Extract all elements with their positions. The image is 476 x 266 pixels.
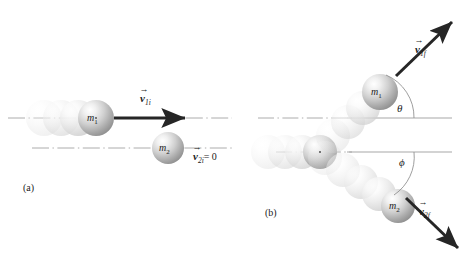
vector-label-v1f: v1f [415, 43, 426, 58]
figure-canvas [0, 0, 476, 266]
ball-m2-collision-center-dot [319, 151, 321, 153]
mass-label-m2-b: m2 [389, 200, 400, 214]
angle-label-phi: ϕ [399, 156, 405, 168]
vector-label-v2f: v2f [419, 205, 430, 220]
panel-tag-a: (a) [23, 182, 34, 193]
angle-label-theta: θ [397, 102, 402, 114]
physics-figure-2d-collision: m1 m2 v1i v2i= 0 (a) m1 m2 v1f v2f θ ϕ (… [0, 0, 476, 266]
vector-label-v2i: v2i= 0 [193, 150, 217, 165]
vector-label-v1i: v1i [140, 92, 151, 107]
mass-label-m2-a: m2 [159, 142, 170, 156]
vector-v2f [406, 198, 458, 248]
mass-label-m1-b: m1 [371, 86, 382, 100]
panel-tag-b: (b) [265, 207, 277, 218]
mass-label-m1-a: m1 [87, 112, 98, 126]
